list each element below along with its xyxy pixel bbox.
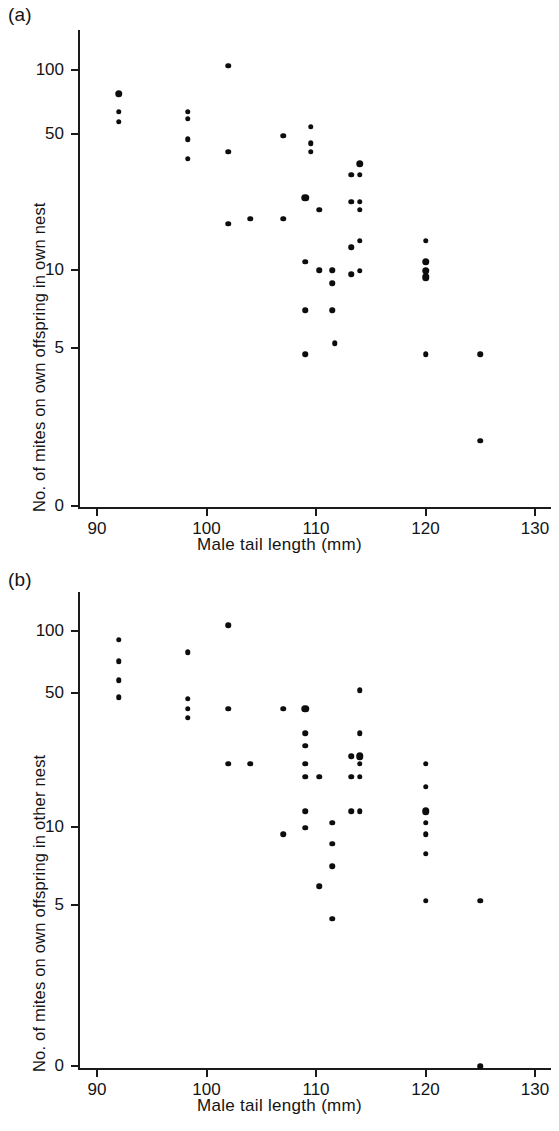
data-point [330, 916, 336, 922]
panel-b-y-tick [71, 904, 78, 906]
data-point [226, 761, 232, 767]
data-point [280, 216, 286, 222]
panel-a-x-tick [206, 509, 208, 516]
data-point [280, 133, 286, 139]
data-point [357, 199, 363, 205]
data-point [348, 809, 354, 815]
data-point [423, 351, 429, 357]
data-point [356, 160, 364, 168]
panel-a-y-tick-label: 50 [18, 124, 64, 144]
panel-a-plot-area: 10050105090100110120130 [0, 0, 559, 565]
data-point [422, 258, 430, 266]
data-point [348, 753, 354, 759]
data-point [330, 267, 336, 273]
panel-a-x-tick [425, 509, 427, 516]
data-point [185, 696, 191, 702]
data-point [226, 622, 232, 628]
data-point [302, 809, 308, 815]
panel-b-x-axis-label: Male tail length (mm) [0, 1096, 559, 1116]
data-point [308, 149, 314, 155]
data-point [226, 149, 232, 155]
data-point [357, 238, 363, 244]
panel-a-y-tick [71, 505, 78, 507]
data-point [348, 774, 354, 780]
data-point [226, 63, 232, 69]
panel-b-x-tick [96, 1070, 98, 1077]
data-point [348, 272, 354, 278]
panel-b-x-tick [534, 1070, 536, 1077]
data-point [423, 238, 429, 244]
data-point [478, 351, 484, 357]
data-point [302, 351, 308, 357]
data-point [185, 715, 191, 721]
data-point [301, 705, 309, 713]
data-point [302, 307, 308, 313]
data-point [302, 259, 308, 265]
data-point [116, 109, 122, 115]
data-point [317, 883, 323, 889]
data-point [423, 851, 429, 857]
data-point [423, 784, 429, 790]
data-point [423, 820, 429, 826]
data-point [330, 841, 336, 847]
panel-b-y-tick-label: 100 [18, 621, 64, 641]
data-point [357, 172, 363, 178]
figure-root: (a) 10050105090100110120130 Male tail le… [0, 0, 559, 1131]
data-point [185, 649, 191, 655]
data-point [280, 831, 286, 837]
data-point [185, 156, 191, 162]
panel-a-y-tick [71, 269, 78, 271]
panel-b-y-tick [71, 630, 78, 632]
data-point [248, 761, 254, 767]
data-point [302, 774, 308, 780]
panel-a-x-axis-label: Male tail length (mm) [0, 535, 559, 555]
data-point [422, 273, 430, 281]
data-point [348, 199, 354, 205]
panel-b-x-tick [425, 1070, 427, 1077]
data-point [348, 244, 354, 250]
data-point [226, 221, 232, 227]
data-point [302, 825, 308, 831]
panel-b-y-tick-label: 50 [18, 683, 64, 703]
panel-a-x-tick [315, 509, 317, 516]
panel-a-y-axis [78, 30, 80, 507]
data-point [317, 267, 323, 273]
data-point [226, 706, 232, 712]
data-point [317, 774, 323, 780]
panel-a-y-tick-label: 100 [18, 60, 64, 80]
data-point [357, 774, 363, 780]
data-point [185, 116, 191, 122]
data-point [308, 124, 314, 130]
data-point [302, 743, 308, 749]
data-point [357, 809, 363, 815]
panel-a-x-tick [96, 509, 98, 516]
panel-a-y-tick [71, 69, 78, 71]
data-point [116, 678, 122, 684]
data-point [115, 90, 123, 98]
data-point [317, 207, 323, 213]
panel-b-y-tick [71, 692, 78, 694]
data-point [356, 752, 364, 760]
data-point [116, 659, 122, 665]
data-point [116, 694, 122, 700]
data-point [185, 109, 191, 115]
data-point [423, 831, 429, 837]
data-point [280, 706, 286, 712]
data-point [302, 731, 308, 737]
data-point [185, 137, 191, 143]
panel-a-y-tick [71, 347, 78, 349]
data-point [357, 207, 363, 213]
panel-a-y-tick [71, 133, 78, 135]
panel-b-x-tick [315, 1070, 317, 1077]
data-point [330, 280, 336, 286]
data-point [116, 637, 122, 643]
data-point [357, 687, 363, 693]
panel-a-y-axis-label: No. of mites on own offspring in own nes… [30, 202, 49, 512]
data-point [302, 761, 308, 767]
data-point [185, 706, 191, 712]
data-point [478, 1063, 484, 1069]
panel-b-y-axis-label: No. of mites on own offspring in other n… [30, 755, 49, 1072]
panel-b-y-tick [71, 1065, 78, 1067]
panel-a: (a) 10050105090100110120130 Male tail le… [0, 0, 559, 565]
data-point [330, 864, 336, 870]
